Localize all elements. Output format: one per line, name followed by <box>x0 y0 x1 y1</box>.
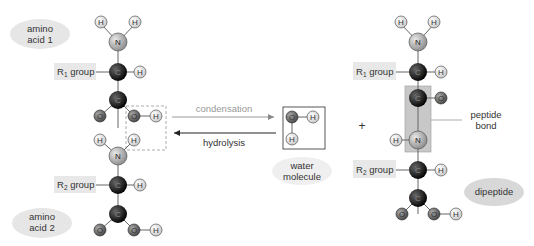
svg-text:N: N <box>115 152 121 161</box>
hydrogen-atom: H <box>128 134 140 146</box>
svg-text:H: H <box>453 210 459 219</box>
svg-text:O: O <box>97 112 103 121</box>
svg-text:H: H <box>289 135 295 144</box>
svg-text:H: H <box>97 136 103 145</box>
svg-text:H: H <box>438 166 444 175</box>
svg-text:O: O <box>97 226 103 235</box>
hydrogen-atom: H <box>428 16 440 28</box>
svg-text:N: N <box>115 38 121 47</box>
svg-text:C: C <box>415 166 421 175</box>
hydrolysis-label: hydrolysis <box>203 137 245 148</box>
hydrogen-atom: H <box>435 66 447 78</box>
svg-text:H: H <box>153 226 159 235</box>
dipeptide-r2-label: R2 group <box>356 164 393 176</box>
svg-text:H: H <box>137 68 143 77</box>
reaction-arrows: condensation hydrolysis <box>172 103 276 148</box>
hydrogen-atom: H <box>307 111 319 123</box>
amino-acid-1-label: amino <box>27 23 53 34</box>
hydrogen-atom: H <box>150 224 162 236</box>
svg-text:bond: bond <box>475 120 496 131</box>
svg-text:C: C <box>115 68 121 77</box>
svg-text:O: O <box>131 112 137 121</box>
oxygen-atom: O <box>435 92 447 104</box>
hydrogen-atom: H <box>94 134 106 146</box>
hydrogen-atom: H <box>129 16 141 28</box>
hydrogen-atom: H <box>395 16 407 28</box>
svg-text:O: O <box>399 210 405 219</box>
svg-text:C: C <box>415 194 421 203</box>
plus-sign: + <box>358 119 365 133</box>
svg-text:O: O <box>438 94 444 103</box>
hydrogen-atom: H <box>286 133 298 145</box>
svg-text:molecule: molecule <box>283 171 321 182</box>
svg-text:H: H <box>132 18 138 27</box>
peptide-bond-label: peptide <box>470 109 501 120</box>
oxygen-atom: O <box>428 208 440 220</box>
svg-text:C: C <box>415 94 421 103</box>
carbon-atom: C <box>109 176 127 194</box>
carbon-atom: C <box>409 189 427 207</box>
r2-group-label: R2 group <box>57 179 94 191</box>
condensation-label: condensation <box>196 103 253 114</box>
svg-text:C: C <box>415 68 421 77</box>
oxygen-atom: O <box>286 111 298 123</box>
amino-acid-1: amino acid 1 R1 group H H N C H C O O H <box>10 16 162 128</box>
svg-text:H: H <box>137 181 143 190</box>
carbon-atom: C <box>409 89 427 107</box>
oxygen-atom: O <box>396 208 408 220</box>
hydrogen-atom: H <box>435 164 447 176</box>
water-molecule: O H H water molecule <box>272 107 332 185</box>
nitrogen-atom: N <box>109 33 127 51</box>
svg-text:C: C <box>115 210 121 219</box>
svg-text:H: H <box>398 18 404 27</box>
hydrogen-atom: H <box>134 179 146 191</box>
svg-text:C: C <box>115 96 121 105</box>
oxygen-atom: O <box>94 110 106 122</box>
svg-text:H: H <box>431 18 437 27</box>
hydrogen-atom: H <box>95 16 107 28</box>
hydrogen-atom: H <box>390 134 402 146</box>
oxygen-atom: O <box>128 224 140 236</box>
hydrogen-atom: H <box>150 110 162 122</box>
water-label: water <box>289 160 313 171</box>
amino-acid-2-label: amino <box>29 211 55 222</box>
nitrogen-atom: N <box>409 131 427 149</box>
svg-text:O: O <box>289 113 295 122</box>
carbon-atom: C <box>109 205 127 223</box>
svg-text:H: H <box>438 68 444 77</box>
hydrogen-atom: H <box>450 208 462 220</box>
svg-text:C: C <box>115 181 121 190</box>
svg-text:H: H <box>310 113 316 122</box>
oxygen-atom: O <box>128 110 140 122</box>
carbon-atom: C <box>109 63 127 81</box>
carbon-atom: C <box>109 91 127 109</box>
carbon-atom: C <box>409 63 427 81</box>
svg-text:N: N <box>415 38 421 47</box>
hydrogen-atom: H <box>134 66 146 78</box>
svg-text:H: H <box>393 136 399 145</box>
peptide-bond-diagram: amino acid 1 R1 group H H N C H C O O H <box>0 0 534 246</box>
svg-text:acid 1: acid 1 <box>27 34 52 45</box>
svg-text:N: N <box>415 136 421 145</box>
dipeptide-label: dipeptide <box>475 186 514 197</box>
svg-text:acid 2: acid 2 <box>29 222 54 233</box>
nitrogen-atom: N <box>109 147 127 165</box>
svg-text:O: O <box>131 226 137 235</box>
svg-text:H: H <box>153 112 159 121</box>
oxygen-atom: O <box>94 224 106 236</box>
r1-group-label: R1 group <box>57 66 94 78</box>
dipeptide: peptide bond R1 group R2 group H H N C H… <box>353 16 524 220</box>
svg-text:H: H <box>98 18 104 27</box>
dipeptide-r1-label: R1 group <box>356 66 393 78</box>
nitrogen-atom: N <box>409 33 427 51</box>
svg-text:O: O <box>431 210 437 219</box>
svg-text:H: H <box>131 136 137 145</box>
carbon-atom: C <box>409 161 427 179</box>
